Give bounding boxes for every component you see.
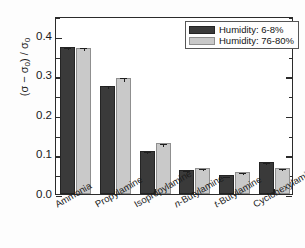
legend-swatch-dark (189, 26, 215, 34)
x-category-label: Ammonia (53, 180, 93, 210)
chart-figure: (σ − σ0) / σ0 0.00.10.20.30.4 AmmoniaPro… (0, 0, 305, 248)
legend-label: Humidity: 76-80% (219, 35, 294, 46)
chart-legend: Humidity: 6-8%Humidity: 76-80% (185, 21, 299, 49)
legend-entry: Humidity: 76-80% (189, 35, 294, 46)
legend-entry: Humidity: 6-8% (189, 24, 294, 35)
legend-label: Humidity: 6-8% (219, 24, 283, 35)
legend-swatch-light (189, 37, 215, 45)
x-category-label: Cyclohexylamine (251, 164, 305, 209)
